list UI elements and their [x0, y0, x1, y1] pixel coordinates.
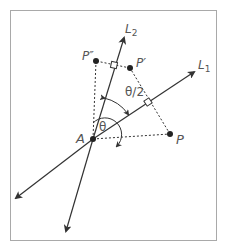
- reflection-diagram: A P P′ P″ L1 L2 θ θ/2: [0, 0, 228, 249]
- label-L1: L1: [198, 58, 210, 74]
- label-L2: L2: [125, 22, 137, 38]
- line-L2: [93, 38, 124, 139]
- point-A: [90, 136, 96, 142]
- label-A: A: [75, 131, 85, 146]
- label-P: P: [176, 132, 184, 147]
- point-P-double-prime: [93, 58, 99, 64]
- line-L1-lower: [16, 139, 93, 198]
- point-P: [167, 131, 173, 137]
- label-P-double-prime: P″: [82, 49, 94, 63]
- point-P-prime: [127, 65, 133, 71]
- label-half-theta: θ/2: [125, 85, 144, 99]
- half-theta-arc: [104, 98, 128, 114]
- label-theta: θ: [99, 120, 106, 134]
- line-L1: [93, 72, 194, 139]
- line-L2-lower: [66, 139, 93, 231]
- right-angle-marker-L2: [110, 61, 117, 68]
- theta-arc: [93, 118, 122, 146]
- label-P-prime: P′: [136, 56, 146, 70]
